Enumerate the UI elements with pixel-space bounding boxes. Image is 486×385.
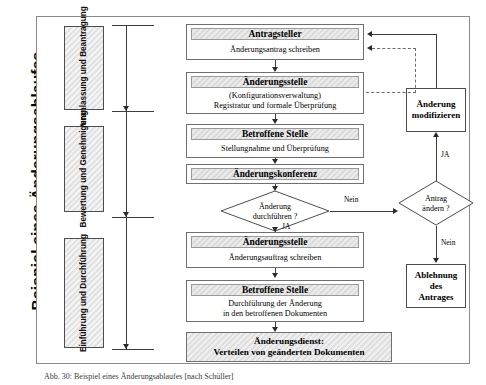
dashed-connector-horizontal-bottom	[366, 92, 416, 93]
phase-label-2: Bewertung und Genehmigung	[79, 111, 89, 228]
side-box-ablehnung-des-antrages[interactable]: Ablehnung des Antrages	[406, 264, 466, 308]
flow-box-header: Antragsteller	[191, 28, 359, 40]
flow-box-header: Betroffene Stelle	[191, 128, 359, 140]
side-box-aenderung-modifizieren[interactable]: Änderung modifizieren	[406, 88, 466, 132]
side-box-line: des	[430, 281, 443, 292]
flow-box-header: Änderungsstelle	[191, 236, 359, 248]
flow-box-body-line: Stellungnahme und Überprüfung	[221, 144, 329, 154]
connector-aendern-ja	[436, 137, 437, 181]
arrow-down	[272, 327, 278, 332]
arrow-down	[272, 186, 278, 191]
flow-box-body-line: Änderungsantrag schreiben	[230, 45, 320, 55]
flow-box-body: Stellungnahme und Überprüfung	[189, 142, 361, 156]
flow-box-antragsteller[interactable]: Antragsteller Änderungsantrag schreiben	[186, 24, 364, 60]
arrow-right	[393, 208, 398, 214]
phase-tick-bottom	[112, 349, 154, 350]
phase-box-bewertung: Bewertung und Genehmigung	[64, 126, 104, 212]
edge-label-aendern-ja: JA	[441, 150, 449, 159]
phase-box-einfuehrung: Einführung und Durchführung	[64, 238, 104, 348]
flow-box-aenderungsdienst[interactable]: Änderungsdienst: Verteilen von geänderte…	[186, 332, 392, 362]
connector-modifizieren-return-vertical	[436, 34, 437, 88]
flow-box-body: Durchführung der Änderung in den betroff…	[189, 298, 361, 320]
dashed-connector-horizontal-top	[372, 48, 416, 49]
decision-antrag-aendern[interactable]: Antrag ändern ?	[398, 180, 474, 226]
connector-modifizieren-return-horizontal	[372, 34, 437, 35]
flow-box-betroffene-stelle-2[interactable]: Betroffene Stelle Durchführung der Änder…	[186, 280, 364, 322]
phase-tick-1	[112, 111, 154, 112]
phase-bracket-spine	[126, 25, 127, 350]
decision-label: Antrag ändern ?	[398, 194, 474, 213]
arrow-down	[272, 67, 278, 72]
flow-box-body-line: Änderungsauftrag schreiben	[229, 253, 322, 263]
phase-bracket-arrow-1	[123, 106, 129, 111]
decision-label: Änderung durchführen ?	[220, 202, 330, 221]
arrow-down	[272, 159, 278, 164]
decision-line: Änderung	[220, 202, 330, 212]
hatched-box-line: Änderungsdienst:	[254, 336, 324, 347]
side-box-line: Änderung	[416, 99, 455, 110]
flow-box-betroffene-stelle-1[interactable]: Betroffene Stelle Stellungnahme und Über…	[186, 124, 364, 158]
flow-box-body: Änderungsauftrag schreiben	[189, 250, 361, 266]
flow-box-aenderungskonferenz[interactable]: Änderungskonferenz	[186, 164, 364, 184]
arrow-down	[272, 273, 278, 278]
flow-box-header: Änderungsstelle	[191, 76, 359, 88]
flow-box-header: Betroffene Stelle	[191, 284, 359, 296]
phase-box-veranlassung: Veranlassung und Beantragung	[64, 26, 104, 110]
connector-durchfuehren-nein	[330, 211, 394, 212]
edge-label-aendern-nein: Nein	[441, 238, 455, 247]
edge-label-durchfuehren-ja: JA	[282, 222, 290, 231]
arrow-down	[272, 227, 278, 232]
connector-aendern-nein	[436, 226, 437, 259]
decision-line: Antrag	[398, 194, 474, 204]
figure-caption: Abb. 30: Beispiel eines Änderungsablaufe…	[44, 372, 234, 381]
figure-canvas: Beispiel eines Änderungsablaufes Veranla…	[0, 0, 486, 385]
side-box-line: Antrages	[419, 292, 454, 303]
arrow-left	[367, 31, 372, 37]
arrow-down	[433, 258, 439, 263]
flow-box-body: Änderungsantrag schreiben	[189, 42, 361, 58]
phase-bracket-arrow-3	[123, 344, 129, 349]
flow-box-body-line: (Konfigurationsverwaltung)	[229, 91, 321, 101]
arrow-down	[272, 119, 278, 124]
phase-tick-top	[112, 25, 154, 26]
decision-line: durchführen ?	[220, 211, 330, 221]
flow-box-body-line: in den betroffenen Dokumenten	[223, 309, 327, 319]
edge-label-durchfuehren-nein: Nein	[344, 195, 358, 204]
side-box-line: modifizieren	[412, 110, 460, 121]
flow-box-aenderungsstelle-2[interactable]: Änderungsstelle Änderungsauftrag schreib…	[186, 232, 364, 268]
dashed-connector-vertical	[415, 48, 416, 93]
flow-box-header: Änderungskonferenz	[191, 168, 359, 180]
arrow-left-dashed	[367, 45, 372, 51]
phase-label-3: Einführung und Durchführung	[79, 234, 89, 352]
phase-bracket-arrow-2	[123, 212, 129, 217]
phase-tick-2	[112, 217, 154, 218]
decision-line: ändern ?	[398, 203, 474, 213]
arrow-up	[433, 132, 439, 137]
hatched-box-line: Verteilen von geänderten Dokumenten	[214, 347, 365, 358]
side-box-line: Ablehnung	[415, 270, 458, 281]
flow-box-aenderungsstelle-1[interactable]: Änderungsstelle (Konfigurationsverwaltun…	[186, 72, 364, 114]
decision-aenderung-durchfuehren[interactable]: Änderung durchführen ?	[220, 190, 330, 232]
flow-box-body-line: Durchführung der Änderung	[228, 299, 322, 309]
flow-box-body: (Konfigurationsverwaltung) Registratur u…	[189, 90, 361, 112]
flow-box-body-line: Registratur und formale Überprüfung	[214, 101, 337, 111]
